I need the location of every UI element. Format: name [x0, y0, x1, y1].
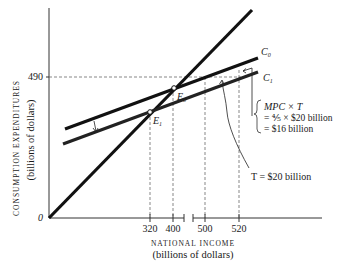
mpc-annotation-line3: = $16 billion	[264, 124, 313, 134]
c1-line	[63, 72, 258, 144]
tax-annotation: T = $20 billion	[251, 171, 311, 182]
y-tick-label-490: 490	[28, 71, 43, 82]
shift-arrow-left	[93, 121, 98, 132]
y-axis-label: CONSUMPTION EXPENDITURES	[12, 80, 21, 216]
e0-point	[172, 86, 177, 91]
c1-label: C1	[263, 72, 273, 84]
consumption-chart: E0 E1 C0 C1 MPC × T = ⅘ × $20 billion = …	[0, 0, 347, 276]
e1-point	[148, 110, 153, 115]
x-tick-label-400: 400	[166, 223, 181, 234]
y-axis-units: (billions of dollars)	[25, 99, 37, 181]
e1-label: E1	[152, 115, 162, 127]
y-tick-label-0: 0	[38, 212, 43, 223]
mpc-annotation-line1: MPC × T	[263, 101, 304, 112]
x-tick-label-520: 520	[232, 223, 247, 234]
guide-lines	[49, 70, 241, 218]
c0-line	[65, 58, 258, 129]
c0-label: C0	[261, 46, 271, 58]
x-tick-label-320: 320	[143, 223, 158, 234]
mpc-annotation-line2: = ⅘ × $20 billion	[264, 113, 333, 123]
mpc-brace	[254, 100, 261, 133]
x-axis-label: NATIONAL INCOME	[151, 239, 235, 248]
tax-arrow	[220, 80, 250, 168]
x-tick-label-500: 500	[198, 223, 213, 234]
x-axis-units: (billions of dollars)	[152, 249, 234, 261]
e0-label: E0	[176, 91, 186, 103]
